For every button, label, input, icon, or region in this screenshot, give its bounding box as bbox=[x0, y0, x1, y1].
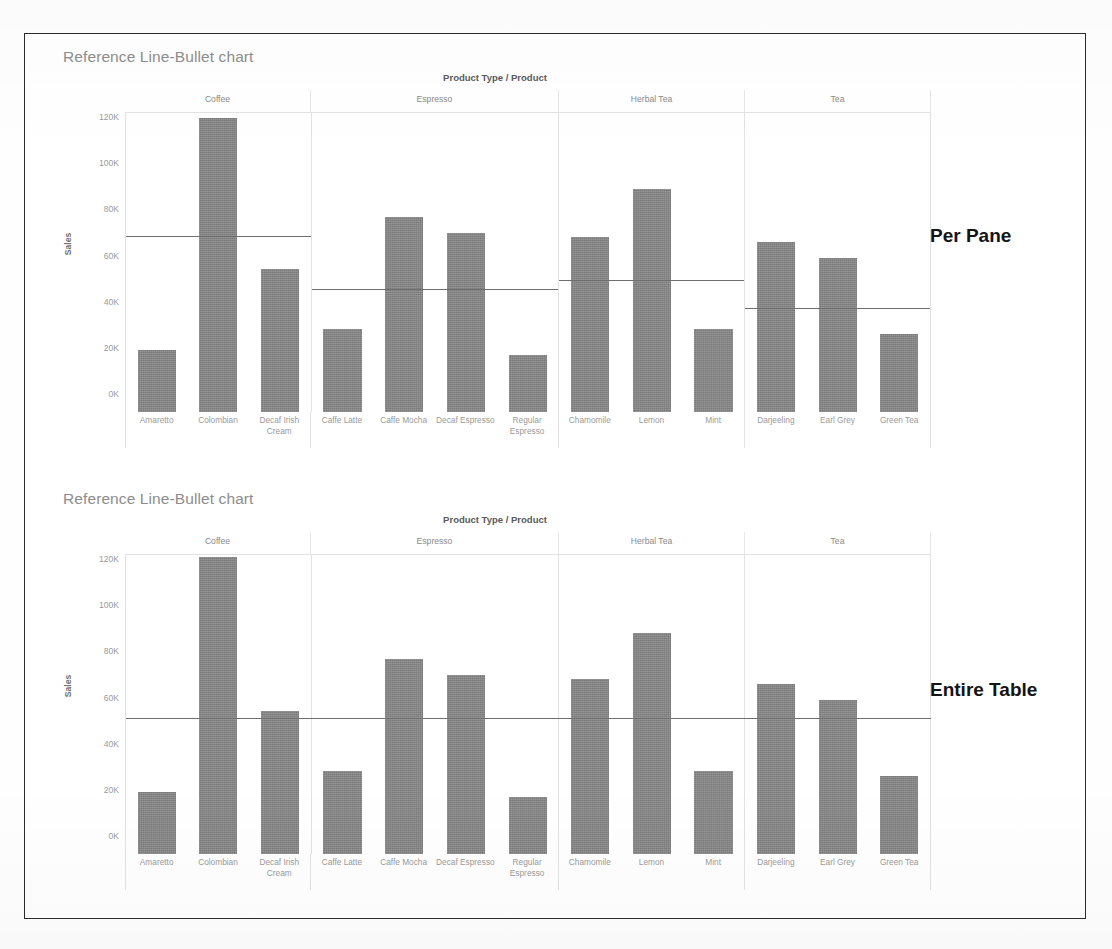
bar-slot bbox=[249, 555, 311, 854]
chart-panel-entire-table: Reference Line-Bullet chart Product Type… bbox=[51, 482, 939, 912]
bar-chamomile[interactable] bbox=[571, 679, 609, 854]
x-axis-label-chamomile[interactable]: Chamomile bbox=[559, 412, 621, 448]
annotation-entire-table: Entire Table bbox=[930, 679, 1090, 701]
bar-decaf-espresso[interactable] bbox=[447, 675, 485, 854]
x-axis-label-amaretto[interactable]: Amaretto bbox=[126, 854, 187, 890]
bar-colombian[interactable] bbox=[199, 118, 237, 412]
y-axis-title-top: Sales bbox=[63, 233, 73, 255]
bar-slot bbox=[683, 113, 745, 412]
x-axis-label-amaretto[interactable]: Amaretto bbox=[126, 412, 187, 448]
x-axis-label-green-tea[interactable]: Green Tea bbox=[868, 854, 930, 890]
y-axis-title-bottom: Sales bbox=[63, 675, 73, 697]
document-page-frame: Reference Line-Bullet chart Product Type… bbox=[24, 33, 1086, 919]
bar-mint[interactable] bbox=[694, 771, 732, 854]
bar-slot bbox=[745, 555, 807, 854]
x-axis-label-chamomile[interactable]: Chamomile bbox=[559, 854, 621, 890]
bar-amaretto[interactable] bbox=[138, 792, 176, 854]
plot-outer-top: CoffeeEspressoHerbal TeaTea AmarettoColo… bbox=[125, 90, 931, 448]
x-axis-label-caffe-mocha[interactable]: Caffe Mocha bbox=[373, 854, 435, 890]
plot-area-bottom bbox=[125, 554, 931, 854]
y-axis-tick-label: 100K bbox=[99, 600, 119, 610]
y-axis-tick-label: 80K bbox=[104, 646, 119, 656]
x-pane-espresso: Caffe LatteCaffe MochaDecaf EspressoRegu… bbox=[311, 412, 559, 448]
x-axis-label-darjeeling[interactable]: Darjeeling bbox=[745, 854, 807, 890]
bar-slot bbox=[435, 555, 497, 854]
chart-panel-per-pane: Reference Line-Bullet chart Product Type… bbox=[51, 40, 939, 470]
pane-espresso bbox=[312, 555, 560, 854]
y-axis-tick-label: 120K bbox=[99, 554, 119, 564]
bar-slot bbox=[745, 113, 807, 412]
x-axis-label-green-tea[interactable]: Green Tea bbox=[868, 412, 930, 448]
pane-espresso bbox=[312, 113, 560, 412]
x-axis-label-regular-espresso[interactable]: Regular Espresso bbox=[496, 854, 558, 890]
panel-title-per-pane: Reference Line-Bullet chart bbox=[63, 48, 254, 66]
y-axis-bottom: Sales 0K20K40K60K80K100K120K bbox=[51, 536, 125, 836]
x-axis-label-caffe-latte[interactable]: Caffe Latte bbox=[311, 854, 373, 890]
y-axis-tick-label: 60K bbox=[104, 251, 119, 261]
x-axis-label-colombian[interactable]: Colombian bbox=[187, 412, 248, 448]
x-axis-row-bottom: AmarettoColombianDecaf Irish CreamCaffe … bbox=[125, 854, 931, 890]
pane-header-espresso: Espresso bbox=[311, 90, 559, 112]
bar-slot bbox=[126, 555, 188, 854]
bar-caffe-latte[interactable] bbox=[323, 329, 361, 412]
bar-lemon[interactable] bbox=[633, 189, 671, 412]
bar-regular-espresso[interactable] bbox=[509, 355, 547, 413]
bar-slot bbox=[559, 555, 621, 854]
bar-earl-grey[interactable] bbox=[819, 258, 857, 412]
x-axis-label-caffe-mocha[interactable]: Caffe Mocha bbox=[373, 412, 435, 448]
y-axis-tick-label: 80K bbox=[104, 204, 119, 214]
pane-header-tea: Tea bbox=[745, 90, 931, 112]
x-pane-tea: DarjeelingEarl GreyGreen Tea bbox=[745, 854, 931, 890]
x-axis-label-caffe-latte[interactable]: Caffe Latte bbox=[311, 412, 373, 448]
x-axis-label-mint[interactable]: Mint bbox=[682, 854, 744, 890]
pane-header-coffee: Coffee bbox=[125, 90, 311, 112]
pane-header-herbal-tea: Herbal Tea bbox=[559, 90, 745, 112]
bar-colombian[interactable] bbox=[199, 557, 237, 854]
x-axis-label-colombian[interactable]: Colombian bbox=[187, 854, 248, 890]
bar-lemon[interactable] bbox=[633, 633, 671, 854]
bar-decaf-irish-cream[interactable] bbox=[261, 269, 299, 412]
x-axis-label-decaf-irish-cream[interactable]: Decaf Irish Cream bbox=[249, 854, 310, 890]
bar-slot bbox=[868, 113, 930, 412]
x-axis-label-darjeeling[interactable]: Darjeeling bbox=[745, 412, 807, 448]
x-axis-label-decaf-irish-cream[interactable]: Decaf Irish Cream bbox=[249, 412, 310, 448]
bar-slot bbox=[312, 555, 374, 854]
pane-tea bbox=[745, 113, 931, 412]
bar-decaf-irish-cream[interactable] bbox=[261, 711, 299, 854]
pane-tea bbox=[745, 555, 931, 854]
x-axis-label-earl-grey[interactable]: Earl Grey bbox=[807, 412, 869, 448]
bar-darjeeling[interactable] bbox=[757, 242, 795, 412]
x-axis-label-lemon[interactable]: Lemon bbox=[621, 412, 683, 448]
x-axis-label-regular-espresso[interactable]: Regular Espresso bbox=[496, 412, 558, 448]
screenshot-page: Reference Line-Bullet chart Product Type… bbox=[0, 0, 1112, 949]
x-axis-label-decaf-espresso[interactable]: Decaf Espresso bbox=[435, 412, 497, 448]
bar-slot bbox=[621, 113, 683, 412]
bar-regular-espresso[interactable] bbox=[509, 797, 547, 855]
bar-slot bbox=[497, 555, 559, 854]
bar-earl-grey[interactable] bbox=[819, 700, 857, 854]
x-pane-herbal-tea: ChamomileLemonMint bbox=[559, 854, 745, 890]
bar-slot bbox=[807, 113, 869, 412]
column-header-label-bottom: Product Type / Product bbox=[51, 514, 939, 525]
bar-slot bbox=[373, 113, 435, 412]
y-axis-tick-label: 0K bbox=[108, 831, 119, 841]
bar-green-tea[interactable] bbox=[880, 776, 918, 854]
bar-darjeeling[interactable] bbox=[757, 684, 795, 854]
bar-caffe-latte[interactable] bbox=[323, 771, 361, 854]
bar-amaretto[interactable] bbox=[138, 350, 176, 412]
y-axis-tick-label: 100K bbox=[99, 158, 119, 168]
x-axis-label-mint[interactable]: Mint bbox=[682, 412, 744, 448]
x-axis-label-lemon[interactable]: Lemon bbox=[621, 854, 683, 890]
bar-decaf-espresso[interactable] bbox=[447, 233, 485, 412]
bar-caffe-mocha[interactable] bbox=[385, 659, 423, 855]
bar-caffe-mocha[interactable] bbox=[385, 217, 423, 413]
bar-slot bbox=[559, 113, 621, 412]
x-axis-label-decaf-espresso[interactable]: Decaf Espresso bbox=[435, 854, 497, 890]
x-axis-label-earl-grey[interactable]: Earl Grey bbox=[807, 854, 869, 890]
pane-header-coffee: Coffee bbox=[125, 532, 311, 554]
bar-green-tea[interactable] bbox=[880, 334, 918, 412]
y-axis-tick-label: 120K bbox=[99, 112, 119, 122]
bar-chamomile[interactable] bbox=[571, 237, 609, 412]
bar-mint[interactable] bbox=[694, 329, 732, 412]
x-axis-row-top: AmarettoColombianDecaf Irish CreamCaffe … bbox=[125, 412, 931, 448]
